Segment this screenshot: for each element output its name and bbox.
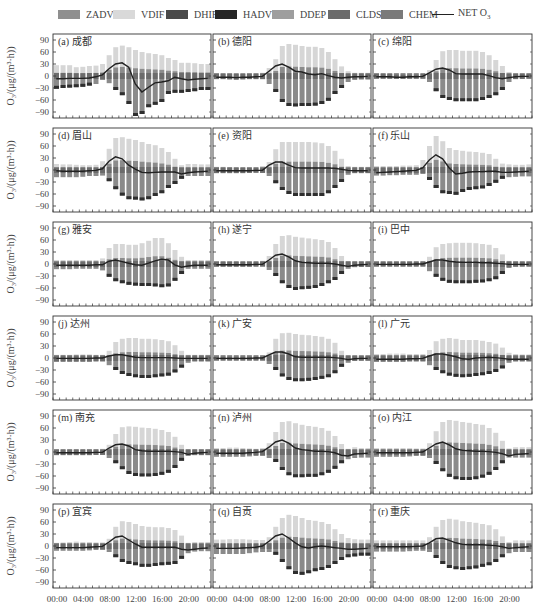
- bar-hadv-cap: [467, 566, 472, 569]
- bar-vdif: [473, 152, 478, 165]
- bar-vdif: [493, 248, 498, 259]
- bar-dhif: [153, 73, 158, 79]
- bar-hadv-cap: [493, 276, 498, 279]
- bar-vdif: [199, 64, 204, 72]
- bar-dhif: [480, 261, 485, 267]
- bar-hadv-cap: [120, 193, 125, 196]
- bar-dhif: [94, 261, 99, 267]
- y-tick-label: 90: [40, 129, 50, 139]
- bar-vdif: [473, 424, 478, 444]
- bar-dhif: [273, 543, 278, 549]
- bar-hadv-cap: [493, 467, 498, 470]
- bar-dhif: [221, 449, 226, 455]
- bar-vdif: [293, 45, 298, 67]
- bar-negative: [480, 76, 485, 100]
- bar-vdif: [339, 534, 344, 542]
- bar-negative: [293, 358, 298, 381]
- y-tick-label: −60: [35, 189, 50, 199]
- x-tick-label: 20:00: [338, 594, 359, 604]
- bar-vdif: [487, 154, 492, 165]
- bar-vdif: [133, 524, 138, 539]
- panel-q: (q) 自贡00:0004:0008:0012:0016:0020:00: [207, 504, 371, 604]
- bar-hadv-cap: [473, 476, 478, 479]
- bar-negative: [473, 546, 478, 568]
- bar-dhif: [359, 167, 364, 173]
- bar-hadv-cap: [306, 103, 311, 106]
- bar-vdif: [333, 529, 338, 541]
- y-tick-label: −60: [35, 283, 50, 293]
- bar-hadv-cap: [440, 95, 445, 98]
- bar-hadv-cap: [120, 371, 125, 374]
- y-tick-label: −60: [35, 471, 50, 481]
- bar-hadv-cap: [487, 472, 492, 475]
- bar-hadv-cap: [107, 274, 112, 277]
- bar-dhif: [520, 355, 525, 361]
- bar-vdif: [447, 420, 452, 442]
- panel-f: (f) 乐山: [373, 128, 532, 212]
- bar-vdif: [313, 239, 318, 256]
- bar-hadv-cap: [280, 373, 285, 376]
- x-tick-label: 20:00: [499, 594, 520, 604]
- bar-hadv-cap: [306, 286, 311, 289]
- bar-negative: [313, 264, 318, 288]
- bar-dhif: [113, 73, 118, 79]
- bar-vdif: [467, 340, 472, 353]
- bar-dhif: [387, 449, 392, 455]
- bar-hadv-cap: [300, 572, 305, 575]
- bar-negative: [126, 452, 131, 474]
- bar-hadv-cap: [447, 280, 452, 283]
- bar-hadv-cap: [333, 561, 338, 564]
- bar-vdif: [120, 137, 125, 160]
- bar-hadv-cap: [126, 373, 131, 376]
- bar-vdif: [293, 423, 298, 443]
- bar-vdif: [319, 428, 324, 445]
- bar-vdif: [166, 243, 171, 258]
- y-tick-label: 0: [45, 447, 50, 457]
- bar-dhif: [247, 73, 252, 79]
- bar-dhif: [273, 73, 278, 79]
- bar-hadv-cap: [140, 473, 145, 476]
- panel-title: (a) 成都: [58, 36, 92, 48]
- bar-hadv-cap: [146, 564, 151, 567]
- bar-dhif: [153, 543, 158, 549]
- panel-title: (h) 遂宁: [218, 223, 252, 236]
- bar-dhif: [146, 73, 151, 79]
- bar-dhif: [286, 355, 291, 361]
- bar-hadv-cap: [67, 85, 72, 88]
- bar-dhif: [387, 73, 392, 79]
- panel-title: (r) 重庆: [378, 505, 411, 518]
- bar-hadv-cap: [113, 87, 118, 90]
- panel-title: (j) 达州: [58, 318, 90, 330]
- bar-negative: [460, 546, 465, 570]
- bar-vdif: [500, 66, 505, 73]
- bar-negative: [467, 546, 472, 569]
- bar-negative: [280, 76, 285, 102]
- bar-vdif: [460, 340, 465, 353]
- bar-vdif: [146, 428, 151, 445]
- x-tick-label: 04:00: [73, 594, 94, 604]
- bar-vdif: [500, 536, 505, 543]
- bar-dhif: [286, 167, 291, 173]
- bar-dhif: [513, 355, 518, 361]
- bar-hadv-cap: [319, 283, 324, 286]
- bar-dhif: [240, 261, 245, 267]
- bar-vdif: [166, 341, 171, 353]
- bar-hadv-cap: [467, 280, 472, 283]
- net-o3-line: [56, 355, 207, 359]
- bar-vdif: [493, 60, 498, 71]
- bar-hadv-cap: [293, 287, 298, 290]
- bar-negative: [286, 264, 291, 288]
- bar-dhif: [192, 543, 197, 549]
- bar-hadv-cap: [500, 87, 505, 90]
- bar-hadv-cap: [473, 280, 478, 283]
- bar-negative: [146, 546, 151, 567]
- bar-negative: [293, 264, 298, 290]
- bar-hadv-cap: [306, 378, 311, 381]
- bar-hadv-cap: [493, 180, 498, 183]
- bar-hadv-cap: [447, 373, 452, 376]
- bar-hadv-cap: [434, 274, 439, 277]
- bar-dhif: [401, 355, 406, 361]
- bar-hadv-cap: [146, 473, 151, 476]
- bar-hadv-cap: [313, 285, 318, 288]
- bar-negative: [319, 76, 324, 104]
